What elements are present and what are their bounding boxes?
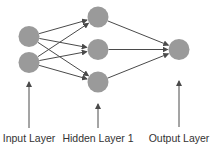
edge-hidden1-2-to-output-0 <box>108 54 169 78</box>
neural-network-diagram: Input Layer Hidden Layer 1 Output Layer <box>0 0 216 156</box>
input-layer-label: Input Layer <box>3 132 56 144</box>
edge-input-0-to-hidden1-0 <box>39 20 87 34</box>
hidden1-node-0 <box>88 7 109 28</box>
output-node-0 <box>169 39 190 60</box>
input-node-0 <box>19 26 40 47</box>
edge-input-1-to-hidden1-2 <box>39 65 87 79</box>
edge-hidden1-0-to-output-0 <box>108 21 169 45</box>
output-layer-label: Output Layer <box>149 132 210 144</box>
hidden1-node-2 <box>88 72 109 93</box>
hidden1-node-1 <box>88 39 109 60</box>
layer-labels: Input Layer Hidden Layer 1 Output Layer <box>3 132 210 144</box>
hidden-layer-label: Hidden Layer 1 <box>62 132 133 144</box>
input-node-1 <box>19 52 40 73</box>
